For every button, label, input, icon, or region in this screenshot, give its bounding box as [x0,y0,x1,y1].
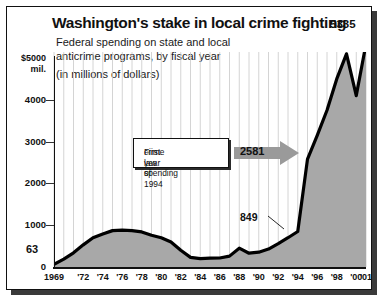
y-axis-tick-label: 2000 [2,178,46,188]
y-axis-line [54,56,56,268]
y-axis-tick-label: 0 [2,262,46,272]
y-axis-tick-label: 4000 [2,95,46,105]
leader-line-849 [268,216,284,229]
x-axis-tick-label: '01 [352,272,380,282]
y-axis-top-label-line1: $5000 [2,53,46,64]
x-axis-line [53,267,366,269]
x-axis-tick-label: 1969 [40,272,68,282]
annotation-line-2: crime law spending [144,147,178,179]
y-axis-tick [46,183,54,184]
callout-value-5335: 5335 [330,18,356,30]
y-axis-tick [46,100,54,101]
chart-figure: Washington's stake in local crime fighti… [0,0,382,304]
y-axis-tick-label: 3000 [2,137,46,147]
callout-value-63: 63 [26,243,38,255]
y-axis-top-label-line2: mil. [2,64,46,75]
callout-value-849: 849 [240,211,258,223]
y-axis-tick [46,142,54,143]
annotation-arrow-value: 2581 [240,145,264,157]
y-axis-top-label: $5000 mil. [2,53,46,74]
y-axis-tick-label: 1000 [2,220,46,230]
y-axis-tick [46,225,54,226]
annotation-box: First year of 1994 crime law spending [133,138,229,168]
